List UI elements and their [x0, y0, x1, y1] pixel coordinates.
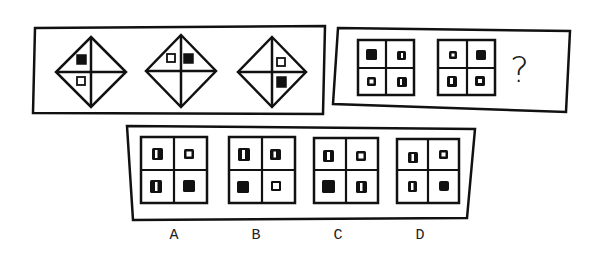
diamond-figure-1 — [56, 37, 126, 107]
option-c-grid[interactable] — [314, 138, 378, 203]
option-label-c[interactable]: C — [328, 227, 348, 244]
option-d-grid[interactable] — [397, 139, 459, 203]
puzzle-canvas — [0, 0, 604, 261]
diamond-figure-3 — [238, 37, 306, 107]
option-b-grid[interactable] — [229, 137, 295, 203]
sequence-grid-1 — [358, 40, 414, 95]
question-mark: ? — [510, 49, 529, 90]
option-a-grid[interactable] — [141, 137, 207, 203]
diamond-figure-2 — [146, 35, 216, 107]
option-label-b[interactable]: B — [246, 227, 266, 244]
sequence-grid-2 — [438, 40, 495, 95]
option-label-a[interactable]: A — [164, 227, 184, 244]
option-label-d[interactable]: D — [410, 227, 430, 244]
